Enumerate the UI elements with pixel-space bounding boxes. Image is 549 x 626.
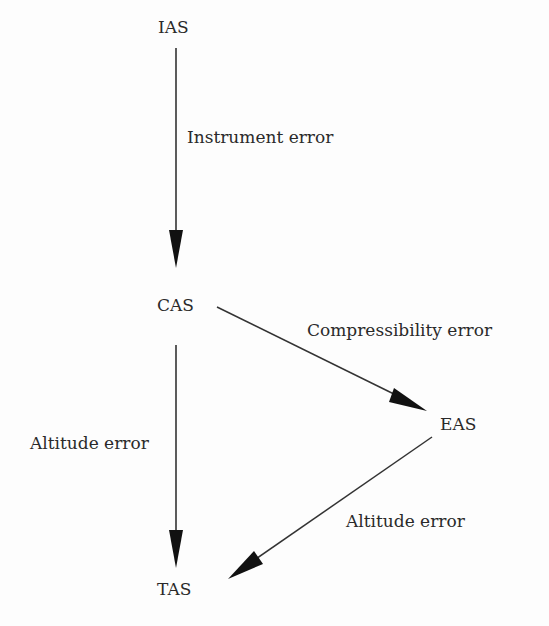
arrow-cas-to-tas	[169, 345, 183, 568]
edge-label-altitude-error-left: Altitude error	[29, 433, 150, 453]
node-cas: CAS	[157, 295, 194, 315]
arrow-eas-to-tas	[228, 437, 432, 579]
node-ias: IAS	[158, 17, 189, 37]
edge-label-instrument-error: Instrument error	[187, 127, 334, 147]
edge-label-altitude-error-right: Altitude error	[345, 511, 466, 531]
airspeed-diagram: IAS CAS EAS TAS Instrument error Compres…	[0, 0, 549, 626]
node-tas: TAS	[157, 579, 191, 599]
edge-label-compressibility-error: Compressibility error	[307, 320, 493, 340]
node-eas: EAS	[440, 414, 476, 434]
arrow-ias-to-cas	[169, 48, 183, 268]
